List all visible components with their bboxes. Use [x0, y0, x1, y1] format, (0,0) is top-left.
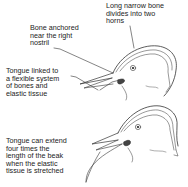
bird-head-tongue-extended	[86, 106, 178, 182]
leader-line-nostril	[54, 48, 113, 73]
leader-line-tongue-extend	[86, 152, 100, 182]
bird-head-tongue-retracted	[80, 46, 176, 100]
leader-line-horns	[130, 26, 134, 48]
diagram-illustration	[0, 0, 188, 187]
